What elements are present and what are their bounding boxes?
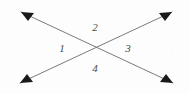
angle-label-1: 1 <box>59 43 65 54</box>
geometry-figure: 1 2 3 4 <box>0 0 189 94</box>
intersecting-lines-svg <box>0 0 189 94</box>
arrowhead-bottom-left-icon <box>20 74 33 83</box>
angle-label-3: 3 <box>125 43 131 54</box>
angle-label-4: 4 <box>92 63 98 74</box>
arrowhead-bottom-right-icon <box>160 74 173 83</box>
arrowhead-top-left-icon <box>21 12 34 21</box>
angle-label-2: 2 <box>92 22 98 33</box>
arrowhead-top-right-icon <box>159 12 172 21</box>
